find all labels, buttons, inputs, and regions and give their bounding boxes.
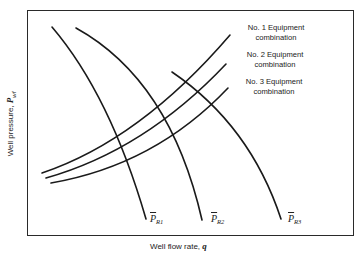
label-pr2: PR2: [211, 213, 224, 225]
legend-line: No. 3 Equipment: [234, 77, 314, 87]
y-axis-subscript: wf: [11, 92, 17, 98]
legend-equipment-1: No. 1 Equipment combination: [236, 23, 316, 42]
x-axis-text: Well flow rate,: [150, 242, 202, 251]
legend-line: No. 2 Equipment: [235, 50, 315, 60]
label-pr3: PR3: [288, 213, 301, 225]
legend-line: combination: [236, 33, 316, 43]
pr-subscript: R1: [156, 218, 163, 225]
figure: No. 1 Equipment combination No. 2 Equipm…: [0, 0, 363, 260]
legend-line: No. 1 Equipment: [236, 23, 316, 33]
y-axis-text: Well pressure,: [6, 103, 15, 156]
x-axis-variable: q: [202, 241, 207, 251]
pr-subscript: R3: [294, 218, 301, 225]
curve-equipment-1: [42, 35, 230, 173]
legend-equipment-3: No. 3 Equipment combination: [234, 77, 314, 96]
legend-line: combination: [234, 87, 314, 97]
legend-line: combination: [235, 60, 315, 70]
curve-pr1: [52, 27, 146, 219]
y-axis-label: Well pressure, Pwf: [5, 92, 17, 157]
x-axis-label: Well flow rate, q: [150, 241, 207, 251]
curve-pr2: [76, 28, 202, 220]
label-pr1: PR1: [150, 213, 163, 225]
y-axis-variable: P: [5, 98, 15, 104]
legend-equipment-2: No. 2 Equipment combination: [235, 50, 315, 69]
pr-subscript: R2: [217, 218, 224, 225]
